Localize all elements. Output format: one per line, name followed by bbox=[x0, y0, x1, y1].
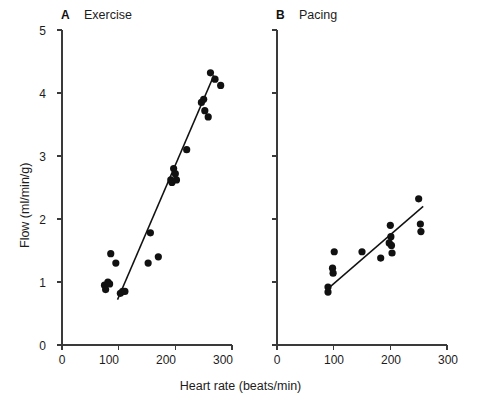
data-point bbox=[145, 260, 152, 267]
series-layer bbox=[101, 69, 425, 299]
figure-root: A Exercise B Pacing Flow (ml/min/g) 0 1 … bbox=[0, 0, 481, 410]
panel-b-x-tick-label-200: 200 bbox=[377, 353, 405, 367]
data-point bbox=[101, 282, 108, 289]
data-point bbox=[330, 270, 337, 277]
data-point bbox=[207, 69, 214, 76]
data-point bbox=[117, 290, 124, 297]
axes-layer bbox=[57, 30, 447, 350]
data-point bbox=[107, 250, 114, 257]
data-point bbox=[417, 228, 424, 235]
y-tick-label-2: 2 bbox=[28, 213, 46, 227]
data-point bbox=[121, 288, 128, 295]
data-point bbox=[417, 220, 424, 227]
y-tick-label-0: 0 bbox=[28, 339, 46, 353]
data-point bbox=[217, 82, 224, 89]
data-point bbox=[168, 179, 175, 186]
panel-a-letter: A bbox=[61, 8, 70, 22]
data-point bbox=[183, 146, 190, 153]
data-point bbox=[388, 242, 395, 249]
panel-b-letter: B bbox=[276, 8, 285, 22]
data-point bbox=[387, 233, 394, 240]
data-point bbox=[172, 170, 179, 177]
data-point bbox=[331, 248, 338, 255]
data-point bbox=[200, 96, 207, 103]
panel-a-regression-line bbox=[118, 75, 214, 299]
y-tick-label-3: 3 bbox=[28, 150, 46, 164]
y-axis-title: Flow (ml/min/g) bbox=[18, 163, 32, 248]
data-point bbox=[106, 280, 113, 287]
data-point bbox=[205, 113, 212, 120]
data-point bbox=[167, 176, 174, 183]
panel-a-x-tick-label-300: 300 bbox=[209, 353, 237, 367]
panel-a-x-tick-label-0: 0 bbox=[48, 353, 76, 367]
panel-a-title: Exercise bbox=[84, 8, 132, 22]
data-point bbox=[102, 286, 109, 293]
data-point bbox=[147, 229, 154, 236]
x-axis-title: Heart rate (beats/min) bbox=[0, 379, 481, 393]
panel-b-x-tick-label-300: 300 bbox=[434, 353, 462, 367]
data-point bbox=[415, 195, 422, 202]
data-point bbox=[386, 239, 393, 246]
data-point bbox=[119, 288, 126, 295]
data-point bbox=[324, 283, 331, 290]
data-point bbox=[170, 165, 177, 172]
data-point bbox=[329, 265, 336, 272]
data-point bbox=[155, 253, 162, 260]
y-tick-label-5: 5 bbox=[28, 24, 46, 38]
panel-a-x-tick-label-100: 100 bbox=[95, 353, 123, 367]
data-point bbox=[388, 249, 395, 256]
panel-b-x-tick-label-100: 100 bbox=[320, 353, 348, 367]
data-point bbox=[112, 260, 119, 267]
data-point bbox=[377, 254, 384, 261]
data-point bbox=[387, 222, 394, 229]
y-tick-label-4: 4 bbox=[28, 87, 46, 101]
data-point bbox=[198, 99, 205, 106]
panel-b-title: Pacing bbox=[299, 8, 337, 22]
data-point bbox=[358, 248, 365, 255]
data-point bbox=[104, 278, 111, 285]
panel-a-x-tick-label-200: 200 bbox=[152, 353, 180, 367]
data-point bbox=[211, 76, 218, 83]
panel-b-x-tick-label-0: 0 bbox=[263, 353, 291, 367]
data-point bbox=[201, 107, 208, 114]
plot-canvas bbox=[0, 0, 481, 410]
y-tick-label-1: 1 bbox=[28, 276, 46, 290]
data-point bbox=[173, 176, 180, 183]
panel-b-regression-line bbox=[327, 206, 423, 289]
data-point bbox=[324, 288, 331, 295]
